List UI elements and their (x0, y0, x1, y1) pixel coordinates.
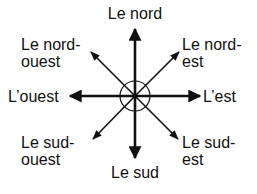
label-northwest-line2: ouest (21, 53, 81, 70)
compass-diagram: Le nord Le sud L’ouest L’est Le nord- ou… (0, 0, 257, 194)
label-northwest: Le nord- ouest (21, 36, 81, 70)
label-southwest-line2: ouest (21, 151, 74, 168)
label-south-text: Le sud (111, 164, 159, 181)
label-northeast-line1: Le nord- (182, 36, 242, 53)
label-southeast: Le sud- est (182, 134, 235, 168)
label-north-text: Le nord (108, 5, 162, 22)
label-west-text: L’ouest (8, 88, 59, 105)
label-northeast-line2: est (182, 53, 242, 70)
arrow-southeast (135, 96, 178, 139)
label-southeast-line2: est (182, 151, 235, 168)
label-southeast-line1: Le sud- (182, 134, 235, 151)
label-west: L’ouest (8, 88, 59, 105)
arrow-northwest (91, 52, 135, 96)
label-east: L’est (203, 88, 236, 105)
arrow-southwest (93, 96, 135, 139)
label-northeast: Le nord- est (182, 36, 242, 70)
arrow-northeast (135, 52, 179, 96)
label-southwest-line1: Le sud- (21, 134, 74, 151)
label-northwest-line1: Le nord- (21, 36, 81, 53)
label-east-text: L’est (203, 88, 236, 105)
label-southwest: Le sud- ouest (21, 134, 74, 168)
label-north: Le nord (108, 5, 162, 22)
label-south: Le sud (111, 164, 159, 181)
center-dot (133, 94, 138, 99)
